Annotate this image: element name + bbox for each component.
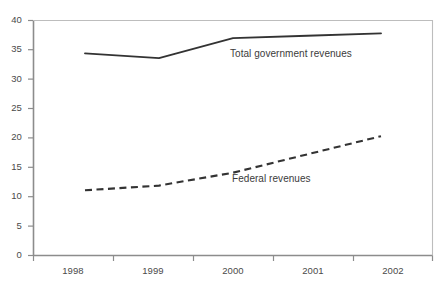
x-tick-label-2002: 2002 (363, 265, 423, 276)
x-tick-label-2000: 2000 (203, 265, 263, 276)
y-tick-label-5: 5 (0, 220, 22, 231)
y-tick-label-40: 40 (0, 14, 22, 25)
y-tick-label-10: 10 (0, 190, 22, 201)
y-tick-label-0: 0 (0, 249, 22, 260)
chart-plot-area (0, 0, 444, 286)
y-tick-label-35: 35 (0, 43, 22, 54)
y-tick-label-30: 30 (0, 73, 22, 84)
series-annotation-federal-revenues: Federal revenues (232, 173, 311, 184)
y-axis-ticks (28, 21, 33, 256)
revenue-line-chart: 0 5 10 15 20 25 30 35 40 1998 1999 2000 … (0, 0, 444, 286)
series-annotation-total-government-revenues: Total government revenues (230, 48, 352, 59)
x-tick-label-1999: 1999 (123, 265, 183, 276)
x-axis-ticks (34, 256, 433, 262)
x-tick-label-2001: 2001 (283, 265, 343, 276)
x-tick-label-1998: 1998 (43, 265, 103, 276)
y-tick-label-25: 25 (0, 102, 22, 113)
y-tick-label-20: 20 (0, 131, 22, 142)
y-tick-label-15: 15 (0, 161, 22, 172)
